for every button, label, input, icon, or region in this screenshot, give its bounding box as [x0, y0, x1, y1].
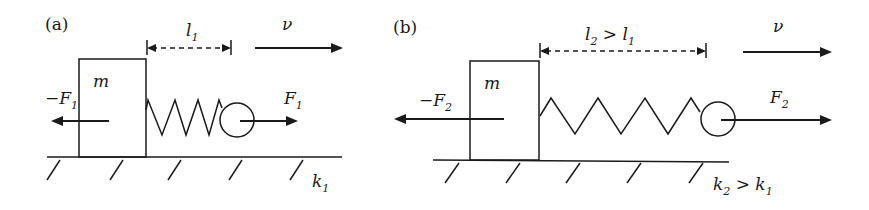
panel-b-label: (b)	[393, 17, 417, 37]
mass-label: m	[484, 73, 500, 93]
mass-label: m	[93, 71, 109, 91]
panel-a-label: (a)	[45, 14, 68, 34]
spring	[146, 100, 222, 135]
panel-b: (b) m F2 −F2	[393, 16, 832, 198]
ground-hatching	[445, 163, 703, 183]
left-force-arrow	[394, 114, 504, 124]
left-force-label: −F2	[419, 90, 452, 114]
length-label: l1	[186, 20, 198, 44]
length-dimension	[540, 43, 706, 58]
velocity-label: ν	[773, 16, 783, 36]
mass-block	[79, 59, 146, 157]
right-force-arrow	[240, 116, 298, 126]
ground-hatching	[47, 160, 303, 180]
velocity-label: ν	[282, 14, 292, 34]
length-label: l2 > l1	[585, 24, 635, 48]
spring-mass-diagram: (a) m F1 −F1	[0, 0, 869, 210]
stiffness-label: k2 > k1	[713, 174, 773, 198]
length-dimension	[147, 40, 231, 55]
velocity-arrow	[255, 43, 343, 53]
mass-block	[470, 61, 539, 160]
panel-a: (a) m F1 −F1	[45, 14, 343, 195]
spring	[540, 98, 700, 134]
velocity-arrow	[743, 47, 832, 57]
stiffness-label: k1	[312, 171, 329, 195]
left-force-arrow	[51, 116, 109, 126]
right-force-label: F2	[769, 87, 789, 111]
right-force-label: F1	[283, 88, 303, 112]
left-force-label: −F1	[45, 88, 78, 112]
right-force-arrow	[721, 115, 832, 125]
